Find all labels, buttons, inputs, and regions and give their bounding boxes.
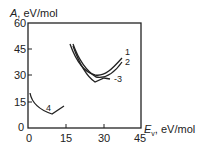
x-axis-label: Ev, eV/mol bbox=[144, 124, 195, 139]
y-tick-45: 45 bbox=[14, 44, 26, 55]
y-tick-30: 30 bbox=[14, 70, 26, 81]
y-tick-15: 15 bbox=[14, 97, 26, 108]
curve-label-3: -3 bbox=[114, 74, 122, 85]
curve-2 bbox=[73, 44, 122, 77]
x-tick-0: 0 bbox=[26, 133, 32, 144]
y-tick-60: 60 bbox=[14, 18, 26, 29]
curve-label-4: 4 bbox=[46, 103, 51, 114]
plot-frame bbox=[28, 23, 141, 128]
x-tick-15: 15 bbox=[60, 133, 72, 144]
y-tick-0: 0 bbox=[18, 122, 24, 133]
x-tick-30: 30 bbox=[98, 133, 110, 144]
ticks bbox=[28, 49, 104, 128]
curve-label-2: 2 bbox=[125, 57, 130, 68]
curves bbox=[30, 44, 122, 114]
